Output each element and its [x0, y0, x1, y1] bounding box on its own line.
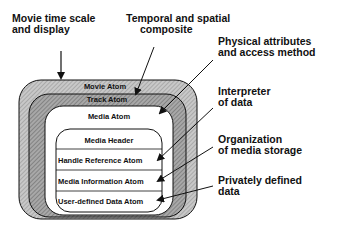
atom-diagram: Movie Atom Track Atom Media Atom Media H… — [0, 0, 340, 233]
user-defined-label: User-defined Data Atom — [58, 197, 143, 206]
movie-atom-label: Movie Atom — [84, 82, 127, 91]
track-atom-label: Track Atom — [87, 95, 128, 104]
media-atom-label: Media Atom — [88, 112, 131, 121]
handle-reference-label: Handle Reference Atom — [58, 156, 143, 165]
media-header-label: Media Header — [85, 136, 134, 145]
media-information-label: Media Information Atom — [58, 177, 144, 186]
